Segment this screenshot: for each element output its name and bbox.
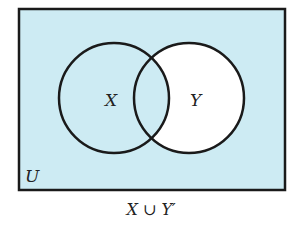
caption: X ∪ Y′	[124, 200, 176, 219]
set-y-label: Y	[190, 90, 203, 110]
universe-label: U	[25, 166, 40, 186]
set-x-label: X	[103, 90, 118, 110]
venn-diagram: X Y U X ∪ Y′	[0, 0, 303, 230]
